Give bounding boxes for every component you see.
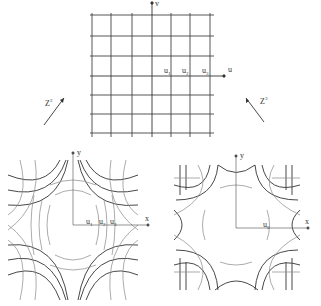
bottom-right-curvilinear-grid [174, 165, 300, 290]
arrow-z3-label: Z3 [260, 96, 268, 106]
br-x-axis-label: x [305, 217, 309, 226]
marker-u2: u2 [182, 66, 189, 76]
bl-marker-u3: u3 [110, 217, 117, 227]
arrow-z3: Z3 [246, 96, 268, 122]
marker-u3: u3 [202, 66, 209, 76]
bl-x-axis-label: x [145, 214, 149, 223]
v-axis-label: v [155, 0, 159, 8]
marker-u1: u1 [164, 66, 171, 76]
bl-y-axis-label: y [77, 148, 81, 157]
br-marker-u0: u0 [263, 220, 270, 230]
arrow-z2-label: Z2 [45, 98, 53, 108]
bl-marker-u2: u2 [99, 217, 106, 227]
arrow-z2: Z2 [44, 98, 64, 125]
bl-marker-u1: u1 [86, 217, 93, 227]
br-y-axis-label: y [240, 151, 244, 160]
u-axis-label: u [228, 65, 232, 74]
conformal-map-diagram: v u u1 u2 u3 Z2 Z3 [0, 0, 321, 306]
